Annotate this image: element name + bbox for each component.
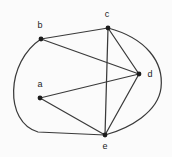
graph-node-a	[38, 96, 43, 101]
graph-edge-b-d	[41, 39, 139, 74]
graph-edge-d-e	[105, 74, 139, 135]
graph-node-label-c: c	[105, 9, 110, 19]
graph-node-d	[137, 72, 142, 77]
graph-edge-c-d	[108, 28, 139, 74]
graph-edge-b-c	[41, 28, 108, 39]
graph-edge-a-d	[40, 74, 139, 98]
graph-node-label-b: b	[37, 20, 42, 30]
graph-figure: abcde	[0, 0, 172, 157]
graph-node-b	[39, 37, 44, 42]
graph-canvas: abcde	[0, 0, 172, 157]
graph-node-c	[106, 26, 111, 31]
graph-edge-b-e	[14, 39, 105, 135]
graph-node-label-a: a	[37, 79, 42, 89]
graph-edge-a-e	[40, 98, 105, 135]
graph-node-label-d: d	[147, 69, 152, 79]
edge-layer	[14, 28, 162, 135]
graph-node-e	[103, 133, 108, 138]
graph-node-label-e: e	[102, 141, 107, 151]
